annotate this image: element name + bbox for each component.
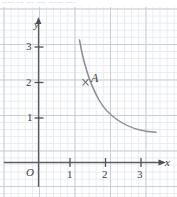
point-a-marker bbox=[83, 79, 89, 86]
hyperbola-curve bbox=[80, 40, 157, 132]
origin-label: O bbox=[26, 167, 34, 178]
point-a-label: A bbox=[91, 73, 98, 84]
x-tick-label-1: 1 bbox=[67, 169, 73, 180]
graph-figure: ..... ... ... .... ...... .... y x O A 3… bbox=[0, 0, 177, 197]
y-axis-label: y bbox=[34, 19, 39, 30]
y-tick-label-2: 2 bbox=[26, 77, 32, 88]
y-tick-label-3: 3 bbox=[26, 41, 32, 52]
y-tick-label-1: 1 bbox=[27, 112, 33, 123]
x-axis-label: x bbox=[165, 157, 170, 168]
x-tick-label-2: 2 bbox=[102, 169, 108, 180]
x-tick-label-3: 3 bbox=[137, 169, 143, 180]
